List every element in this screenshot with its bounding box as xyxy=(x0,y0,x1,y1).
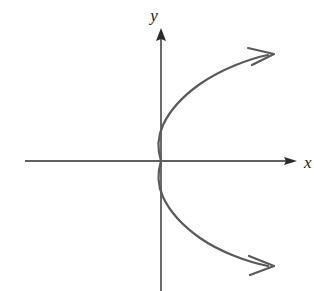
x-axis-label: x xyxy=(303,153,312,172)
parabola-lower-branch xyxy=(159,161,268,266)
y-axis-label: y xyxy=(148,6,158,25)
parabola-upper-branch xyxy=(159,55,268,161)
graph-canvas: y x xyxy=(0,0,314,291)
parabola-figure: y x xyxy=(0,0,314,291)
